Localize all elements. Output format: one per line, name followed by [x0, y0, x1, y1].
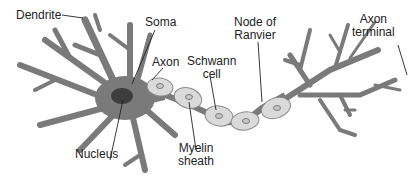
label-myelin-line2: sheath	[178, 155, 214, 168]
label-node-of-ranvier: Node of Ranvier	[234, 16, 276, 42]
label-axon-terminal: Axon terminal	[352, 13, 395, 39]
label-nucleus: Nucleus	[75, 148, 118, 161]
label-axon: Axon	[152, 56, 179, 69]
nucleus-shape	[111, 88, 133, 104]
label-dendrite: Dendrite	[16, 9, 61, 22]
label-soma: Soma	[145, 16, 176, 29]
label-schwann-line2: cell	[187, 68, 236, 81]
label-myelin-sheath: Myelin sheath	[178, 142, 214, 168]
neuron-diagram: Dendrite Soma Axon Schwann cell Node of …	[0, 0, 412, 182]
label-schwann-cell: Schwann cell	[187, 55, 236, 81]
label-node-line2: Ranvier	[234, 29, 276, 42]
label-terminal-line2: terminal	[352, 26, 395, 39]
myelin-segments	[146, 76, 294, 132]
